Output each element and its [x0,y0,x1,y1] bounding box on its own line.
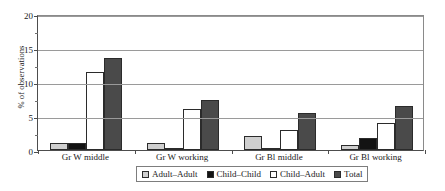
gridline [38,16,423,17]
y-axis-tick [34,50,38,51]
x-axis-category-label: Gr Bl working [316,152,436,162]
bar [359,138,377,150]
legend-item[interactable]: Adult–Adult [142,169,198,179]
bar [280,130,298,150]
y-axis-tick [34,16,38,17]
bar [395,106,413,150]
legend-swatch-icon [207,171,214,178]
y-axis-tick-label: 5 [29,113,34,123]
gridline [38,118,423,119]
y-axis-title: % of observations [16,12,26,142]
legend-label: Child–Adult [280,169,325,179]
legend-swatch-icon [142,171,149,178]
y-axis-tick [34,84,38,85]
bar [183,109,201,150]
gridline [38,50,423,51]
bar [165,148,183,150]
y-axis-tick [34,118,38,119]
y-axis-tick-label: 15 [24,45,33,55]
bar [341,145,359,150]
bar [244,136,262,150]
chart-legend: Adult–AdultChild–ChildChild–AdultTotal [136,166,368,182]
gridline [38,84,423,85]
legend-label: Total [344,169,362,179]
y-axis-minor-tick [35,135,38,136]
bar [147,143,165,150]
legend-label: Adult–Adult [152,169,198,179]
legend-swatch-icon [270,171,277,178]
plot-area: 05101520 [37,15,424,151]
y-axis-minor-tick [35,33,38,34]
bar [201,100,219,150]
legend-item[interactable]: Child–Adult [270,169,325,179]
legend-swatch-icon [334,171,341,178]
y-axis-tick-label: 10 [24,79,33,89]
bar [377,123,395,150]
bar-chart-figure: % of observations 05101520 Gr W middleGr… [0,0,445,191]
y-axis-tick-label: 20 [24,11,33,21]
legend-label: Child–Child [217,169,262,179]
bar [50,143,68,150]
legend-item[interactable]: Child–Child [207,169,262,179]
y-axis-minor-tick [35,67,38,68]
y-axis-minor-tick [35,101,38,102]
legend-item[interactable]: Total [334,169,362,179]
bar [262,148,280,150]
bar [68,143,86,150]
bar [104,58,122,150]
